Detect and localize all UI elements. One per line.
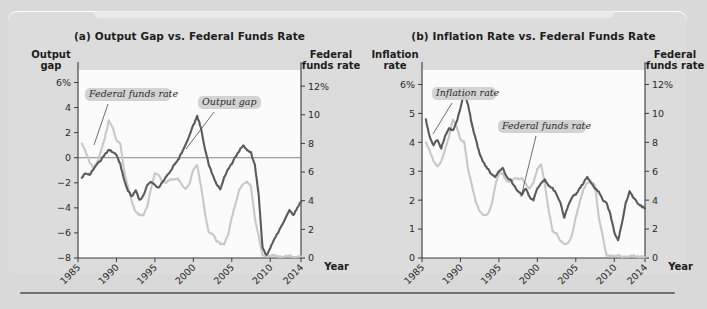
svg-text:6: 6 bbox=[308, 166, 314, 177]
svg-text:4: 4 bbox=[652, 195, 658, 206]
svg-text:1: 1 bbox=[409, 223, 415, 234]
svg-text:−2: −2 bbox=[57, 177, 71, 188]
svg-text:1985: 1985 bbox=[58, 262, 83, 287]
svg-text:2010: 2010 bbox=[250, 262, 275, 287]
svg-text:Federal funds rate: Federal funds rate bbox=[88, 88, 178, 99]
svg-text:2: 2 bbox=[652, 223, 658, 234]
svg-text:1985: 1985 bbox=[402, 262, 427, 287]
svg-text:1995: 1995 bbox=[134, 262, 159, 287]
panel-b-render: 6%54321012%10864201985199019952000200520… bbox=[400, 62, 673, 287]
svg-text:2010: 2010 bbox=[594, 262, 619, 287]
svg-text:4: 4 bbox=[308, 195, 314, 206]
svg-text:2014: 2014 bbox=[625, 262, 650, 287]
svg-text:2014: 2014 bbox=[281, 262, 306, 287]
svg-text:Federal funds rate: Federal funds rate bbox=[501, 120, 591, 131]
svg-text:10: 10 bbox=[308, 109, 320, 120]
svg-text:12%: 12% bbox=[652, 79, 673, 90]
panel-b-plot: 6%54321012%10864201985199019952000200520… bbox=[360, 22, 707, 274]
svg-text:6%: 6% bbox=[56, 77, 71, 88]
svg-text:5: 5 bbox=[409, 108, 415, 119]
svg-text:8: 8 bbox=[308, 138, 314, 149]
svg-text:4: 4 bbox=[65, 102, 71, 113]
svg-text:12%: 12% bbox=[308, 81, 329, 92]
svg-text:2000: 2000 bbox=[173, 262, 198, 287]
figure-bottom-rule bbox=[20, 292, 675, 294]
svg-text:Output gap: Output gap bbox=[202, 96, 257, 107]
figure-card: (a) Output Gap vs. Federal Funds Rate Ou… bbox=[8, 11, 687, 274]
svg-text:10: 10 bbox=[652, 108, 664, 119]
svg-text:2: 2 bbox=[308, 224, 314, 235]
svg-text:6: 6 bbox=[652, 166, 658, 177]
chart-panel-b: (b) Inflation Rate vs. Federal Funds Rat… bbox=[360, 22, 707, 274]
svg-text:2005: 2005 bbox=[211, 262, 236, 287]
svg-text:−4: −4 bbox=[57, 202, 71, 213]
svg-text:4: 4 bbox=[409, 137, 415, 148]
svg-text:0: 0 bbox=[409, 252, 415, 263]
svg-text:1990: 1990 bbox=[96, 262, 121, 287]
svg-text:3: 3 bbox=[409, 166, 415, 177]
svg-text:1990: 1990 bbox=[440, 262, 465, 287]
figure-top-strip bbox=[94, 11, 614, 18]
svg-text:2005: 2005 bbox=[555, 262, 580, 287]
svg-text:8: 8 bbox=[652, 137, 658, 148]
svg-text:0: 0 bbox=[308, 252, 314, 263]
svg-text:1995: 1995 bbox=[478, 262, 503, 287]
svg-text:2: 2 bbox=[409, 195, 415, 206]
svg-text:2: 2 bbox=[65, 127, 71, 138]
chart-panel-a: (a) Output Gap vs. Federal Funds Rate Ou… bbox=[16, 22, 363, 274]
svg-text:0: 0 bbox=[652, 252, 658, 263]
svg-text:Inflation rate: Inflation rate bbox=[435, 87, 500, 98]
svg-text:0: 0 bbox=[65, 152, 71, 163]
panel-a-render: 6%420−2−4−6−812%108642019851990199520002… bbox=[56, 62, 329, 287]
svg-text:−6: −6 bbox=[57, 227, 71, 238]
svg-text:2000: 2000 bbox=[517, 262, 542, 287]
svg-text:−8: −8 bbox=[57, 252, 71, 263]
svg-text:6%: 6% bbox=[400, 79, 415, 90]
panel-a-plot: 6%420−2−4−6−812%108642019851990199520002… bbox=[16, 22, 363, 274]
